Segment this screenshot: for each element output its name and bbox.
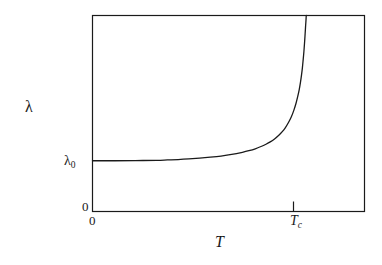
- x-tick-label-tc: Tc: [290, 214, 302, 230]
- lambda-subscript-zero: 0: [71, 160, 76, 170]
- lambda-symbol: λ: [64, 153, 71, 168]
- plot-canvas: [0, 0, 382, 265]
- lambda-curve: [93, 16, 307, 161]
- x-axis-title-text: T: [215, 233, 224, 250]
- x-axis-title: T: [215, 234, 224, 250]
- y-origin-text: 0: [82, 199, 89, 214]
- y-axis-title-text: λ: [25, 98, 33, 115]
- tc-symbol-text: T: [290, 213, 298, 228]
- plot-frame: [93, 16, 365, 212]
- y-tick-label-zero: 0: [82, 200, 89, 213]
- y-tick-label-lambda0: λ0: [64, 154, 76, 170]
- x-tick-label-zero: 0: [89, 214, 96, 227]
- tc-subscript-c: c: [298, 220, 302, 230]
- x-origin-text: 0: [89, 213, 96, 228]
- figure-container: λ λ0 0 0 Tc T: [0, 0, 382, 265]
- y-axis-title: λ: [25, 99, 33, 115]
